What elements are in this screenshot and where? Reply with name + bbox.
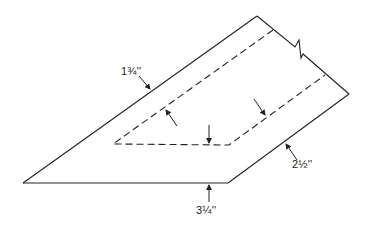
dimension-label-3-1-4: 3¼'' xyxy=(196,204,216,216)
dimension-label-2-1-2: 2½'' xyxy=(292,158,312,170)
dimension-label-1-3-4: 1¾'' xyxy=(121,65,141,77)
inner-dashed-line xyxy=(113,30,325,145)
plate-diagram xyxy=(0,0,367,236)
